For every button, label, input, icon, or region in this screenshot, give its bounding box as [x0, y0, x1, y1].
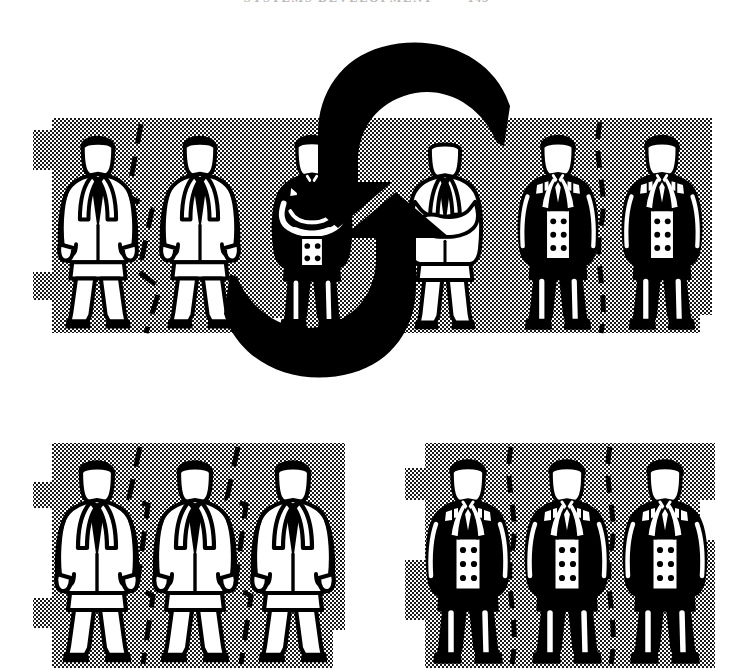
- light-suit-group: [30, 440, 350, 672]
- exchange-cycle-illustration: [0, 0, 733, 672]
- dark-suit-group: [402, 440, 720, 672]
- illustration-stage: SYSTEMS DEVELOPMENT145: [0, 0, 733, 672]
